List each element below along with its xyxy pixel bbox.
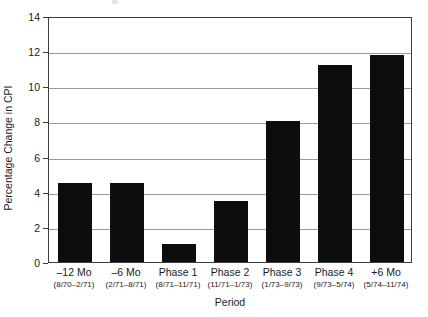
x-axis-category-range: (9/73–5/74) <box>308 279 360 290</box>
y-axis-tick: 8 <box>0 122 48 123</box>
bar <box>266 121 300 262</box>
x-axis-tick-label: ‒12 Mo(8/70–2/71) <box>48 266 100 290</box>
x-axis-category-range: (8/70–2/71) <box>48 279 100 290</box>
x-axis-tick-label: Phase 3(1/73–9/73) <box>256 266 308 290</box>
y-axis-tick-label: 0 <box>34 255 40 271</box>
x-axis-tick-label: Phase 2(11/71–1/73) <box>204 266 256 290</box>
x-axis-category-name: ‒6 Mo <box>100 266 152 279</box>
y-axis-ticks: 02468101214 <box>0 0 48 317</box>
x-axis-category-name: +6 Mo <box>360 266 412 279</box>
x-axis-title: Period <box>48 296 412 308</box>
y-axis-tick: 10 <box>0 87 48 88</box>
y-axis-tick-label: 6 <box>34 150 40 166</box>
x-axis-category-range: (8/71–11/71) <box>152 279 204 290</box>
y-axis-tick: 6 <box>0 158 48 159</box>
x-axis-category-name: Phase 4 <box>308 266 360 279</box>
x-axis-category-name: ‒12 Mo <box>48 266 100 279</box>
y-axis-tick: 12 <box>0 52 48 53</box>
y-axis-tick-label: 4 <box>34 185 40 201</box>
bar <box>162 244 196 262</box>
x-axis-tick-label: Phase 1(8/71–11/71) <box>152 266 204 290</box>
y-axis-tick-label: 10 <box>28 79 40 95</box>
x-axis-category-range: (1/73–9/73) <box>256 279 308 290</box>
x-axis-category-range: (2/71–8/71) <box>100 279 152 290</box>
y-axis-tick: 0 <box>0 263 48 264</box>
y-axis-tick: 2 <box>0 228 48 229</box>
bar <box>318 65 352 262</box>
x-axis-tick-label: Phase 4(9/73–5/74) <box>308 266 360 290</box>
scan-artifact <box>112 0 118 4</box>
bar <box>214 201 248 263</box>
bar-chart: Percentage Change in CPI 02468101214 ‒12… <box>0 0 428 317</box>
y-axis-tick-label: 12 <box>28 44 40 60</box>
x-axis-category-name: Phase 1 <box>152 266 204 279</box>
x-axis-category-range: (11/71–1/73) <box>204 279 256 290</box>
y-axis-tick-mark <box>43 263 48 264</box>
y-axis-tick-label: 8 <box>34 114 40 130</box>
bar <box>58 183 92 262</box>
bar-series <box>49 18 411 262</box>
y-axis-tick: 4 <box>0 193 48 194</box>
y-axis-tick-label: 14 <box>28 9 40 25</box>
x-axis-tick-label: ‒6 Mo(2/71–8/71) <box>100 266 152 290</box>
x-axis-category-name: Phase 2 <box>204 266 256 279</box>
plot-area <box>48 17 412 263</box>
x-axis-category-range: (5/74–11/74) <box>360 279 412 290</box>
y-axis-tick: 14 <box>0 17 48 18</box>
x-axis-tick-label: +6 Mo(5/74–11/74) <box>360 266 412 290</box>
bar <box>110 183 144 262</box>
y-axis-tick-label: 2 <box>34 220 40 236</box>
bar <box>370 55 404 262</box>
x-axis-tick-labels: ‒12 Mo(8/70–2/71)‒6 Mo(2/71–8/71)Phase 1… <box>48 266 412 294</box>
x-axis-category-name: Phase 3 <box>256 266 308 279</box>
